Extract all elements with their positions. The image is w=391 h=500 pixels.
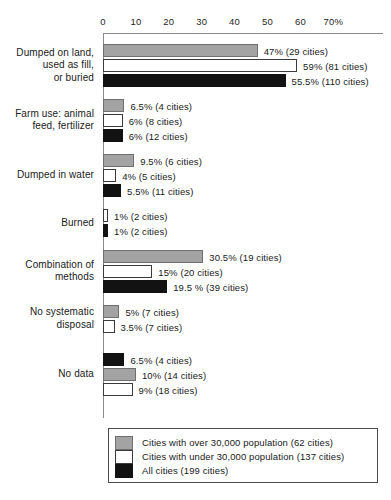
bar-value-label: 47% (29 cities) [264,45,328,56]
bar [103,209,108,222]
bar-row: 6.5% (4 cities) [103,353,391,366]
bar-row: 47% (29 cities) [103,44,391,57]
category-label: No data [0,368,94,381]
x-axis-tick-label: 60 [295,16,306,27]
x-axis-tick-label: 30 [196,16,207,27]
bar-value-label: 4% (5 cities) [122,170,176,181]
bar-value-label: 10% (14 cities) [142,369,206,380]
bar [103,305,119,318]
bar [103,353,124,366]
x-axis-tick-label: 0 [100,16,105,27]
x-axis-tick-label: 10 [130,16,141,27]
bar-value-label: 1% (2 cities) [114,225,168,236]
legend-label: All cities (199 cities) [142,465,228,476]
bar-value-label: 55.5% (110 cities) [292,75,369,86]
bar [103,59,297,72]
bar [103,383,133,396]
bar-value-label: 19.5 % (39 cities) [173,281,248,292]
bar [103,320,115,333]
bar-row: 6.5% (4 cities) [103,99,391,112]
category-label: Dumped on land, used as fill, or buried [0,47,94,85]
bar-group: Dumped in water9.5% (6 cities)4% (5 citi… [0,154,391,199]
bar-value-label: 6% (8 cities) [129,115,183,126]
x-axis-tick-label: 40 [229,16,240,27]
bar-row: 10% (14 cities) [103,368,391,381]
bar-group: No data6.5% (4 cities)10% (14 cities)9% … [0,353,391,398]
bar [103,280,167,293]
x-axis-tick-label: 70% [323,16,343,27]
bar-value-label: 1% (2 cities) [114,210,168,221]
bar [103,265,152,278]
bar-row: 4% (5 cities) [103,169,391,182]
legend-swatch [115,450,133,464]
bar-group: Farm use: animal feed, fertilizer6.5% (4… [0,99,391,144]
legend-swatch [115,464,133,478]
x-axis-tick-label: 20 [163,16,174,27]
x-axis-tick-label: 50 [262,16,273,27]
bar [103,169,116,182]
chart-legend: Cities with over 30,000 population (62 c… [108,428,378,483]
bar [103,114,123,127]
category-label: No systematic disposal [0,306,94,331]
bar [103,368,136,381]
bar-group: Combination of methods30.5% (19 cities)1… [0,250,391,295]
bar-value-label: 5.5% (11 cities) [127,185,193,196]
bar [103,154,134,167]
bar-row: 5% (7 cities) [103,305,391,318]
bar [103,250,203,263]
bar-row: 1% (2 cities) [103,224,391,237]
bar-row: 9.5% (6 cities) [103,154,391,167]
bar-value-label: 30.5% (19 cities) [209,251,281,262]
bar-value-label: 9.5% (6 cities) [140,155,202,166]
bar-chart: Dumped on land, used as fill, or buried4… [0,0,391,500]
bar-value-label: 6.5% (4 cities) [130,100,192,111]
legend-item: All cities (199 cities) [115,463,228,478]
bar-row: 55.5% (110 cities) [103,74,391,87]
bar-row: 15% (20 cities) [103,265,391,278]
bar-value-label: 6% (12 cities) [129,130,188,141]
bar-group: Dumped on land, used as fill, or buried4… [0,44,391,89]
bar-row: 6% (12 cities) [103,129,391,142]
bar [103,74,286,87]
bar-value-label: 3.5% (7 cities) [121,321,183,332]
bar-group: Burned1% (2 cities)1% (2 cities) [0,209,391,239]
category-label: Combination of methods [0,259,94,284]
legend-item: Cities with over 30,000 population (62 c… [115,435,333,450]
legend-item: Cities with under 30,000 population (137… [115,449,344,464]
bar-row: 30.5% (19 cities) [103,250,391,263]
bar [103,129,123,142]
legend-label: Cities with over 30,000 population (62 c… [142,437,333,448]
bar-row: 1% (2 cities) [103,209,391,222]
bar-value-label: 59% (81 cities) [303,60,367,71]
bar-row: 9% (18 cities) [103,383,391,396]
bar [103,44,258,57]
bar-row: 6% (8 cities) [103,114,391,127]
bar-value-label: 9% (18 cities) [139,384,198,395]
bar-row: 19.5 % (39 cities) [103,280,391,293]
bar-row: 59% (81 cities) [103,59,391,72]
category-label: Dumped in water [0,169,94,182]
legend-swatch [115,436,133,450]
bar-row: 5.5% (11 cities) [103,184,391,197]
bar-value-label: 6.5% (4 cities) [130,354,192,365]
bar [103,184,121,197]
bar-value-label: 5% (7 cities) [125,306,179,317]
bar-group: No systematic disposal5% (7 cities)3.5% … [0,305,391,335]
plot-area: Dumped on land, used as fill, or buried4… [0,33,391,418]
category-label: Farm use: animal feed, fertilizer [0,108,94,133]
bar-value-label: 15% (20 cities) [158,266,222,277]
category-label: Burned [0,217,94,230]
legend-label: Cities with under 30,000 population (137… [142,451,344,462]
bar [103,224,108,237]
bar-row: 3.5% (7 cities) [103,320,391,333]
bar [103,99,124,112]
